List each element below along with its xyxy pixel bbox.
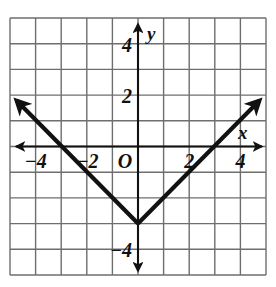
y-tick-label-4: 4 (121, 34, 132, 56)
x-tick-label-4: 4 (234, 150, 245, 172)
y-axis-label: y (145, 23, 156, 44)
y-tick-label-2: 2 (121, 85, 132, 107)
x-tick-label-minus-4: −4 (25, 150, 47, 172)
y-tick-label-minus-4: −4 (110, 239, 132, 261)
x-tick-label-2: 2 (183, 150, 194, 172)
graph-figure: 4 2 −4 −4 −2 2 4 O y x (0, 0, 276, 287)
x-axis-label: x (237, 122, 248, 143)
x-tick-label-minus-2: −2 (76, 150, 98, 172)
origin-label: O (118, 150, 132, 172)
coordinate-plane-svg: 4 2 −4 −4 −2 2 4 O y x (0, 0, 276, 287)
